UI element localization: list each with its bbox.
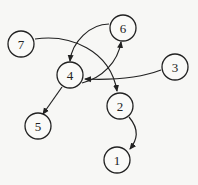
- node-7: 7: [8, 31, 34, 57]
- edge-2-to-1: [129, 117, 136, 149]
- node-3: 3: [162, 54, 188, 80]
- node-2: 2: [107, 93, 133, 119]
- node-6: 6: [110, 15, 136, 41]
- node-label: 7: [18, 37, 25, 52]
- edge-4-to-5: [43, 87, 62, 114]
- node-label: 2: [117, 99, 124, 114]
- directed-graph: 1 2 3 4 5 6 7: [0, 0, 198, 185]
- node-label: 1: [114, 153, 121, 168]
- node-4: 4: [57, 62, 83, 88]
- node-5: 5: [25, 113, 51, 139]
- node-label: 5: [35, 119, 42, 134]
- node-label: 4: [67, 68, 74, 83]
- node-label: 6: [120, 21, 127, 36]
- node-label: 3: [172, 60, 179, 75]
- node-1: 1: [104, 147, 130, 173]
